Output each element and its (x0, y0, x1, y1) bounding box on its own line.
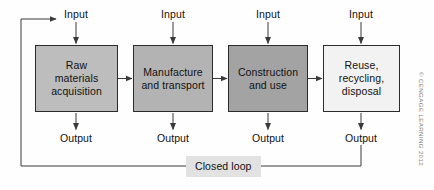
stage-label-construction-and-use: Construction and use (232, 66, 304, 92)
stage-label-raw-materials-acquisition: Raw materials acquisition (45, 59, 108, 98)
stage-label-line: Raw (48, 59, 105, 72)
output-label-2: Output (153, 132, 193, 144)
stage-label-line: and transport (138, 79, 207, 92)
output-label-4: Output (341, 132, 381, 144)
stage-box-manufacture-and-transport[interactable]: Manufacture and transport (133, 45, 213, 112)
stage-box-raw-materials-acquisition[interactable]: Raw materials acquisition (35, 45, 118, 112)
stage-label-line: Reuse, (336, 59, 387, 72)
stage-label-line: Construction (235, 66, 301, 79)
stage-label-reuse-recycling-disposal: Reuse, recycling, disposal (333, 59, 390, 98)
diagram-canvas: Raw materials acquisition Manufacture an… (0, 0, 434, 190)
input-label-2: Input (157, 8, 189, 20)
stage-label-line: recycling, (336, 72, 387, 85)
output-label-1: Output (56, 132, 96, 144)
stage-label-line: and use (235, 79, 301, 92)
input-label-1: Input (60, 8, 92, 20)
stage-label-line: acquisition (48, 85, 105, 98)
stage-label-line: disposal (336, 85, 387, 98)
output-label-3: Output (248, 132, 288, 144)
copyright-credit: © CENGAGE LEARNING 2012 (418, 72, 425, 166)
stage-label-manufacture-and-transport: Manufacture and transport (135, 66, 210, 92)
input-label-3: Input (252, 8, 284, 20)
input-label-4: Input (345, 8, 377, 20)
stage-label-line: Manufacture (138, 66, 207, 79)
closed-loop-label: Closed loop (186, 156, 261, 177)
stage-box-construction-and-use[interactable]: Construction and use (228, 45, 308, 112)
stage-label-line: materials (48, 72, 105, 85)
stage-box-reuse-recycling-disposal[interactable]: Reuse, recycling, disposal (323, 45, 400, 112)
